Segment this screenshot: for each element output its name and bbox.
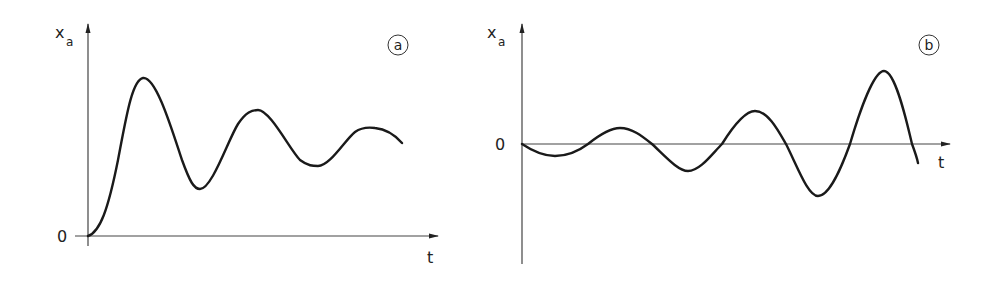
figure: 0 x a t a 0 x a t b xyxy=(0,0,993,282)
x-axis-label-a: t xyxy=(427,248,433,267)
curve-a xyxy=(88,78,402,236)
x-axis-label-b: t xyxy=(938,153,944,172)
panel-a: 0 x a t a xyxy=(55,23,438,267)
y-axis-sub-a: a xyxy=(66,35,73,49)
zero-label-b: 0 xyxy=(495,135,505,154)
y-axis-sub-b: a xyxy=(498,35,505,49)
y-axis-label-b: x xyxy=(487,23,496,42)
panel-label-b: b xyxy=(925,37,934,53)
panel-label-a: a xyxy=(394,37,403,53)
curve-b xyxy=(522,71,918,196)
y-axis-label-a: x xyxy=(55,23,64,42)
panel-b: 0 x a t b xyxy=(487,23,950,264)
zero-label-a: 0 xyxy=(57,227,67,246)
